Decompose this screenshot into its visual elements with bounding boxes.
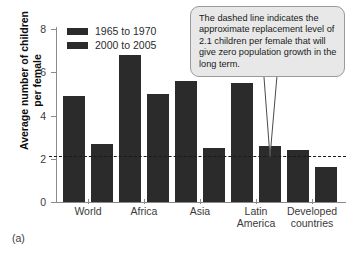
chart-legend: 1965 to 1970 2000 to 2005 [67, 24, 182, 52]
y-tick-label-8: 8 [26, 24, 46, 35]
bar-developed-countries-2000-2005 [315, 167, 337, 202]
bar-asia-1965-1970 [175, 81, 197, 202]
x-tick-mark-world [88, 199, 89, 204]
x-axis-label-developed-countries-line2: countries [291, 217, 334, 229]
legend-swatch-icon-1965-1970 [67, 28, 88, 35]
y-tick-label-2: 2 [26, 154, 46, 165]
legend-item-2000-2005: 2000 to 2005 [67, 38, 182, 52]
legend-label-2000-2005: 2000 to 2005 [95, 39, 156, 51]
bar-developed-countries-1965-1970 [287, 150, 309, 202]
bar-group-africa [119, 27, 171, 202]
y-axis-title-line2: per female [30, 54, 42, 107]
x-tick-mark-latin-america [256, 199, 257, 204]
legend-swatch-icon-2000-2005 [67, 42, 88, 49]
replacement-level-dashed-line [49, 156, 346, 157]
bar-world-1965-1970 [63, 96, 85, 202]
bar-group-world [63, 27, 115, 202]
legend-label-1965-1970: 1965 to 1970 [95, 25, 156, 37]
y-tick-label-6: 6 [26, 67, 46, 78]
figure-container: Average number of children per female 0 … [0, 0, 354, 259]
legend-item-1965-1970: 1965 to 1970 [67, 24, 182, 38]
callout-text: The dashed line indicates the approximat… [199, 13, 337, 70]
x-tick-mark-africa [144, 199, 145, 204]
x-tick-mark-developed-countries [312, 199, 313, 204]
figure-label: (a) [12, 232, 25, 244]
x-axis-label-developed-countries-line1: Developed [287, 205, 337, 217]
x-tick-mark-asia [200, 199, 201, 204]
callout-box: The dashed line indicates the approximat… [190, 6, 345, 77]
y-tick-label-4: 4 [26, 111, 46, 122]
bar-latin-america-1965-1970 [231, 83, 253, 202]
x-axis-line [56, 202, 346, 203]
bar-world-2000-2005 [91, 144, 113, 202]
bar-africa-2000-2005 [147, 94, 169, 202]
bar-latin-america-2000-2005 [259, 146, 281, 202]
bar-africa-1965-1970 [119, 55, 141, 202]
x-axis-label-developed-countries: Developed countries [262, 206, 354, 229]
y-tick-mark-0 [51, 202, 57, 203]
